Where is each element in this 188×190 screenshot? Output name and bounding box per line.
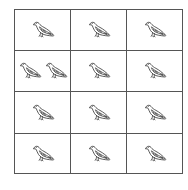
pigeon-icon: [143, 144, 167, 164]
pigeon-icon: [18, 61, 42, 81]
grid-cell-r1-c2: [127, 51, 182, 92]
pigeon-icon: [31, 20, 55, 40]
pigeon-icon: [87, 144, 111, 164]
pigeon-icon: [143, 61, 167, 81]
pigeonhole-grid: [14, 9, 183, 174]
pigeon-icon: [143, 20, 167, 40]
pigeon-icon: [87, 20, 111, 40]
grid-cell-r3-c1: [71, 134, 127, 173]
pigeon-icon: [31, 103, 55, 123]
grid-cell-r2-c0: [15, 92, 71, 134]
grid-cell-r0-c1: [71, 10, 127, 51]
pigeon-icon: [143, 103, 167, 123]
grid-cell-r0-c2: [127, 10, 182, 51]
grid-cell-r3-c0: [15, 134, 71, 173]
pigeon-icon: [87, 61, 111, 81]
grid-cell-r0-c0: [15, 10, 71, 51]
grid-cell-r2-c1: [71, 92, 127, 134]
grid-cell-r2-c2: [127, 92, 182, 134]
pigeon-icon: [44, 61, 68, 81]
grid-cell-r1-c1: [71, 51, 127, 92]
pigeon-icon: [31, 144, 55, 164]
grid-cell-r3-c2: [127, 134, 182, 173]
grid-cell-r1-c0: [15, 51, 71, 92]
pigeon-icon: [87, 103, 111, 123]
